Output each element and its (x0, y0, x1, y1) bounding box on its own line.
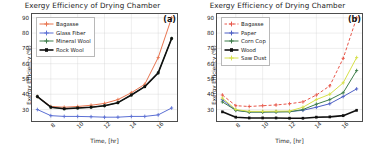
y-tick-label: 50 (207, 76, 214, 82)
figure-two-panel-chart: Exergy Efficiency of Drying Chamber Exer… (0, 0, 370, 149)
x-tick-label: 16 (341, 121, 350, 130)
legend-item[interactable]: Wood (224, 46, 266, 55)
y-tick-label: 90 (22, 15, 29, 21)
panel-a: Exergy Efficiency of Drying Chamber Exer… (0, 0, 185, 149)
legend-label: Bagasse (241, 21, 264, 27)
x-tick-label: 14 (129, 121, 138, 130)
plot-area-b: 30405060708090810121416 BagassePaperCorn… (216, 13, 363, 122)
legend-label: Glass Fiber (56, 30, 85, 36)
y-tick-label: 30 (207, 107, 214, 113)
legend-item[interactable]: Saw Dust (224, 54, 266, 63)
x-tick-label: 8 (234, 122, 241, 129)
chart-title-b: Exergy Efficiency of Drying Chamber (185, 1, 370, 10)
chart-title-a: Exergy Efficiency of Drying Chamber (0, 1, 185, 10)
legend-item[interactable]: Paper (224, 29, 266, 38)
legend-swatch-icon (224, 54, 239, 62)
legend-swatch-icon (39, 29, 54, 37)
y-tick-label: 40 (207, 91, 214, 97)
legend-item[interactable]: Bagasse (224, 20, 266, 29)
y-tick-label: 80 (207, 30, 214, 36)
y-tick-label: 90 (207, 15, 214, 21)
legend-label: Saw Dust (241, 55, 266, 61)
y-tick-label: 70 (22, 45, 29, 51)
legend-label: Mineral Wool (56, 38, 91, 44)
legend-b[interactable]: BagassePaperCorn CopWoodSaw Dust (221, 17, 270, 66)
x-tick-label: 16 (156, 121, 165, 130)
legend-item[interactable]: Glass Fiber (39, 29, 91, 38)
x-tick-label: 10 (75, 121, 84, 130)
legend-swatch-icon (224, 20, 239, 28)
y-tick-label: 70 (207, 45, 214, 51)
legend-label: Paper (241, 30, 256, 36)
panel-label-a: (a) (163, 15, 176, 24)
y-tick-label: 60 (207, 61, 214, 67)
y-tick-label: 40 (22, 91, 29, 97)
legend-item[interactable]: Rock Wool (39, 46, 91, 55)
x-tick-label: 8 (49, 122, 56, 129)
x-tick-label: 10 (260, 121, 269, 130)
x-tick-label: 14 (314, 121, 323, 130)
legend-swatch-icon (39, 46, 54, 54)
x-tick-label: 12 (287, 121, 296, 130)
legend-item[interactable]: Mineral Wool (39, 37, 91, 46)
legend-label: Corn Cop (241, 38, 266, 44)
legend-swatch-icon (224, 29, 239, 37)
x-axis-label-a: Time, [hr] (31, 138, 178, 144)
y-tick-label: 60 (22, 61, 29, 67)
y-tick-label: 30 (22, 107, 29, 113)
legend-swatch-icon (224, 46, 239, 54)
legend-item[interactable]: Bagasse (39, 20, 91, 29)
legend-swatch-icon (39, 37, 54, 45)
y-tick-label: 50 (22, 76, 29, 82)
legend-item[interactable]: Corn Cop (224, 37, 266, 46)
legend-label: Bagasse (56, 21, 79, 27)
y-tick-label: 80 (22, 30, 29, 36)
panel-b: Exergy Efficiency of Drying Chamber Exer… (185, 0, 370, 149)
legend-label: Wood (241, 47, 256, 53)
legend-a[interactable]: BagasseGlass FiberMineral WoolRock Wool (36, 17, 95, 57)
x-tick-label: 12 (102, 121, 111, 130)
legend-label: Rock Wool (56, 47, 84, 53)
legend-swatch-icon (39, 20, 54, 28)
x-axis-label-b: Time, [hr] (216, 138, 363, 144)
panel-label-b: (b) (348, 15, 361, 24)
legend-swatch-icon (224, 37, 239, 45)
plot-area-a: 30405060708090810121416 BagasseGlass Fib… (31, 13, 178, 122)
